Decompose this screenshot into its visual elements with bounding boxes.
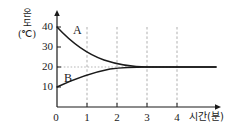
x-tick-label-4: 4 [170, 112, 184, 123]
x-tick-label-1: 1 [80, 112, 94, 123]
series-b-curve [57, 67, 216, 87]
series-b-label: B [64, 72, 72, 84]
x-tick-label-0: 0 [49, 112, 63, 123]
series-a-label: A [73, 24, 82, 36]
y-tick-label-20: 20 [35, 61, 53, 72]
x-tick-label-3: 3 [140, 112, 154, 123]
y-tick-label-10: 10 [35, 81, 53, 92]
x-axis-title: 시간(분) [189, 112, 224, 122]
x-tick-label-2: 2 [110, 112, 124, 123]
y-tick-label-30: 30 [35, 41, 53, 52]
y-tick-label-40: 40 [35, 21, 53, 32]
y-axis-title-text: 온도 [22, 8, 33, 27]
temperature-time-chart: 온도 (℃) 40 30 20 10 0 1 2 3 4 시간(분) A B [0, 0, 233, 137]
